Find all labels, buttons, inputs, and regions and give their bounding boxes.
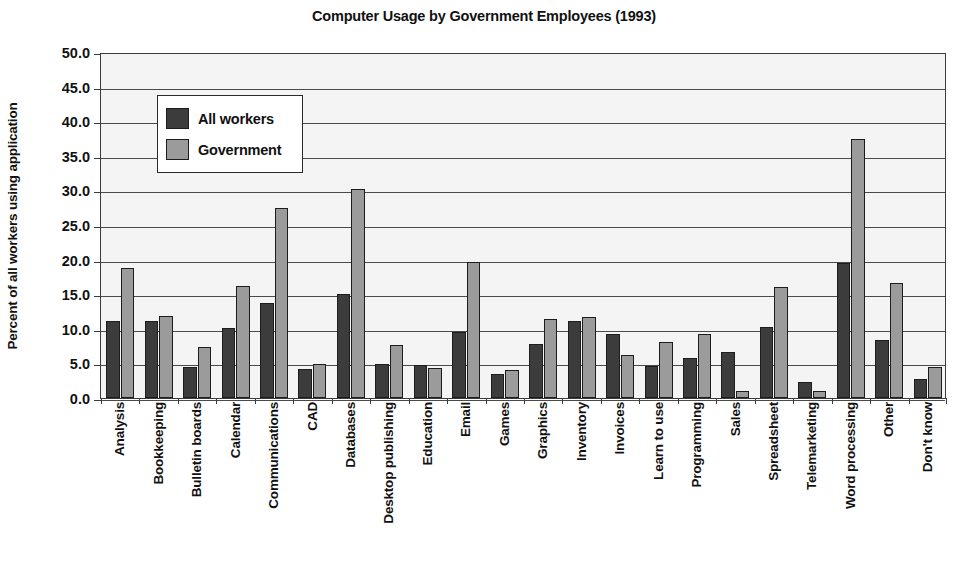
bar <box>198 347 212 398</box>
bar <box>351 189 365 398</box>
bar <box>568 321 582 398</box>
bar-group <box>562 54 600 398</box>
y-tick-label: 50.0 <box>28 45 90 61</box>
chart-container: Computer Usage by Government Employees (… <box>0 0 968 579</box>
bar-group <box>870 54 908 398</box>
bar <box>698 334 712 398</box>
bar <box>121 268 135 398</box>
x-tick-label: CAD <box>304 402 319 572</box>
bar <box>914 379 928 398</box>
bar <box>645 366 659 398</box>
x-tick-label: Education <box>419 402 434 572</box>
bar-group <box>601 54 639 398</box>
y-axis-tick-labels: 50.045.040.035.030.025.020.015.010.05.00… <box>28 43 90 409</box>
y-tick-mark <box>94 192 101 193</box>
bar-group <box>447 54 485 398</box>
y-tick-mark <box>94 365 101 366</box>
x-axis-tick-labels: AnalysisBookkeepingBulletin boardsCalend… <box>100 402 946 578</box>
bar <box>467 262 481 398</box>
x-tick-label: Analysis <box>112 402 127 572</box>
bar-group <box>793 54 831 398</box>
bar <box>529 344 543 398</box>
bar <box>582 317 596 398</box>
gridline <box>101 400 945 401</box>
bar <box>428 368 442 398</box>
legend-swatch-icon-all-workers <box>166 108 189 129</box>
bar <box>183 367 197 398</box>
x-tick-label: Word processing <box>842 402 857 572</box>
y-tick-label: 0.0 <box>28 391 90 407</box>
bar <box>813 391 827 398</box>
legend-item-all-workers: All workers <box>166 103 294 134</box>
bar-group <box>370 54 408 398</box>
bar-group <box>755 54 793 398</box>
y-tick-label: 10.0 <box>28 322 90 338</box>
bar <box>222 328 236 398</box>
bar <box>721 352 735 398</box>
bar <box>145 321 159 399</box>
bar-group <box>486 54 524 398</box>
bar-group <box>332 54 370 398</box>
bar <box>928 367 942 398</box>
bar <box>760 327 774 398</box>
bar-group <box>639 54 677 398</box>
x-tick-label: Databases <box>342 402 357 572</box>
y-tick-mark <box>94 400 101 401</box>
bar <box>798 382 812 398</box>
bar-group <box>909 54 947 398</box>
bar <box>106 321 120 398</box>
y-tick-mark <box>94 262 101 263</box>
chart-legend: All workers Government <box>157 95 303 173</box>
bar <box>260 303 274 398</box>
y-tick-label: 20.0 <box>28 253 90 269</box>
bar-group <box>716 54 754 398</box>
x-tick-label: Games <box>496 402 511 572</box>
x-tick-label: Inventory <box>573 402 588 572</box>
y-tick-mark <box>94 123 101 124</box>
x-tick-label: Other <box>881 402 896 572</box>
y-tick-label: 40.0 <box>28 114 90 130</box>
legend-label-all-workers: All workers <box>198 111 274 127</box>
bar <box>313 364 327 398</box>
bar <box>621 355 635 398</box>
bar <box>375 364 389 398</box>
bar <box>505 370 519 398</box>
bar <box>837 263 851 398</box>
y-tick-label: 25.0 <box>28 218 90 234</box>
y-tick-mark <box>94 227 101 228</box>
bar <box>159 316 173 398</box>
legend-label-government: Government <box>198 142 281 158</box>
bar <box>606 334 620 398</box>
x-tick-label: Desktop publishing <box>381 402 396 572</box>
chart-title: Computer Usage by Government Employees (… <box>0 8 968 24</box>
bar <box>414 365 428 398</box>
bar <box>452 332 466 398</box>
y-tick-label: 35.0 <box>28 149 90 165</box>
bar <box>491 374 505 398</box>
y-tick-mark <box>94 89 101 90</box>
x-tick-label: Graphics <box>535 402 550 572</box>
bar <box>851 139 865 399</box>
x-tick-label: Programming <box>689 402 704 572</box>
bar <box>337 294 351 398</box>
bar <box>298 369 312 398</box>
legend-item-government: Government <box>166 134 294 165</box>
bar <box>875 340 889 398</box>
y-axis-title: Percent of all workers using application <box>2 53 24 399</box>
x-tick-label: Email <box>458 402 473 572</box>
y-tick-mark <box>94 54 101 55</box>
bar <box>736 391 750 398</box>
x-tick-mark <box>946 398 947 404</box>
x-tick-label: Invoices <box>612 402 627 572</box>
bar <box>890 283 904 398</box>
y-tick-label: 5.0 <box>28 356 90 372</box>
x-tick-label: Learn to use <box>650 402 665 572</box>
y-tick-label: 30.0 <box>28 183 90 199</box>
bar-group <box>678 54 716 398</box>
bar <box>275 208 289 398</box>
bar <box>659 342 673 398</box>
y-tick-mark <box>94 158 101 159</box>
bar <box>683 358 697 398</box>
bar <box>774 287 788 398</box>
bar-group <box>409 54 447 398</box>
